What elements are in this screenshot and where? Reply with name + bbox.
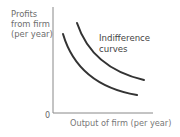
curves-annotation: Indifference curves [99,33,150,55]
origin-label: 0 [45,111,50,120]
y-axis-label: Profits from firm (per year) [11,9,53,39]
x-axis-label: Output of firm (per year) [70,118,171,128]
